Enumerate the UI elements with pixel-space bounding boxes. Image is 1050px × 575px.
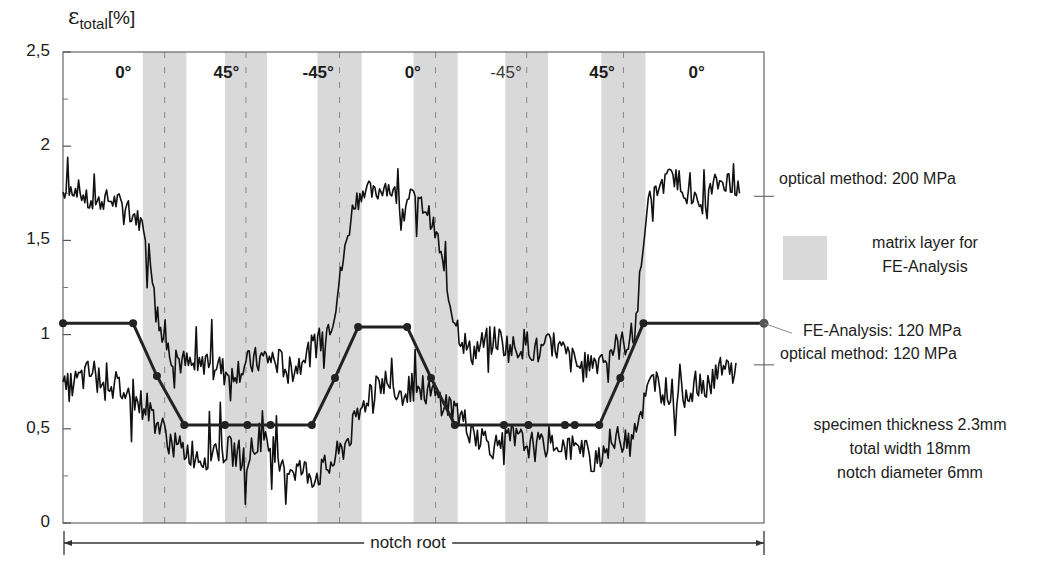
y-tick-label: 2: [4, 135, 50, 155]
fe-marker: [427, 374, 435, 382]
y-axis-ticks: [63, 52, 71, 523]
legend-fe-120: FE-Analysis: 120 MPa: [803, 322, 961, 340]
y-axis-title: εtotal[%]: [68, 4, 135, 32]
legend-optical-200: optical method: 200 MPa: [779, 170, 956, 188]
ply-orientation-label: -45°: [302, 63, 333, 83]
ply-orientation-label: 0°: [405, 63, 421, 83]
fe-marker: [595, 421, 603, 429]
fe-marker: [616, 374, 624, 382]
chart-canvas: [0, 0, 1050, 575]
matrix-band: [414, 52, 458, 523]
fe-marker: [331, 374, 339, 382]
fe-marker: [639, 319, 647, 327]
y-tick-label: 0,5: [4, 418, 50, 438]
fe-marker: [561, 421, 569, 429]
y-tick-label: 2,5: [4, 41, 50, 61]
fe-marker: [451, 421, 459, 429]
notch-root-label: notch root: [364, 533, 452, 553]
y-tick-label: 1,5: [4, 229, 50, 249]
fe-marker: [129, 319, 137, 327]
fe-marker: [59, 319, 67, 327]
fe-marker: [524, 421, 532, 429]
fe-marker: [354, 323, 362, 331]
matrix-band: [505, 52, 548, 523]
fe-marker: [243, 421, 251, 429]
epsilon-symbol: ε: [68, 4, 79, 29]
fe-marker: [571, 421, 579, 429]
ply-orientation-label: 45°: [589, 63, 615, 83]
fe-marker: [308, 421, 316, 429]
matrix-band: [143, 52, 186, 523]
spec-thickness: specimen thickness 2.3mm: [770, 416, 1050, 434]
ply-orientation-label: 0°: [689, 63, 705, 83]
fe-marker: [153, 372, 161, 380]
ply-orientation-label: 45°: [213, 63, 239, 83]
spec-total-width: total width 18mm: [770, 440, 1050, 458]
legend-leader-lines: [754, 196, 792, 365]
y-tick-label: 0: [4, 512, 50, 532]
ply-orientation-label: 0°: [115, 63, 131, 83]
y-axis-subscript: total: [79, 15, 107, 32]
legend-matrix-line1: matrix layer for: [850, 234, 1000, 252]
spec-notch-diameter: notch diameter 6mm: [770, 464, 1050, 482]
fe-marker: [221, 421, 229, 429]
fe-marker: [180, 421, 188, 429]
fe-marker: [266, 421, 274, 429]
ply-orientation-label: -45°: [490, 63, 521, 83]
fe-marker: [403, 323, 411, 331]
legend-matrix-swatch: [783, 236, 827, 280]
legend-optical-120: optical method: 120 MPa: [780, 345, 957, 363]
fe-marker: [500, 421, 508, 429]
y-tick-label: 1: [4, 324, 50, 344]
y-axis-unit: [%]: [108, 7, 135, 28]
legend-matrix-line2: FE-Analysis: [850, 258, 1000, 276]
